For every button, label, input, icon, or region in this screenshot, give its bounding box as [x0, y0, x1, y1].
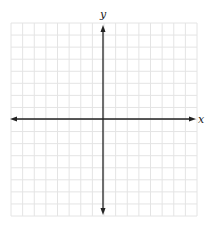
arrow-down-icon — [101, 208, 106, 215]
coordinate-plane: y x — [0, 0, 210, 227]
y-axis-label: y — [99, 8, 107, 21]
arrow-right-icon — [189, 117, 196, 122]
x-axis-label: x — [198, 113, 205, 126]
arrow-up-icon — [101, 25, 106, 32]
